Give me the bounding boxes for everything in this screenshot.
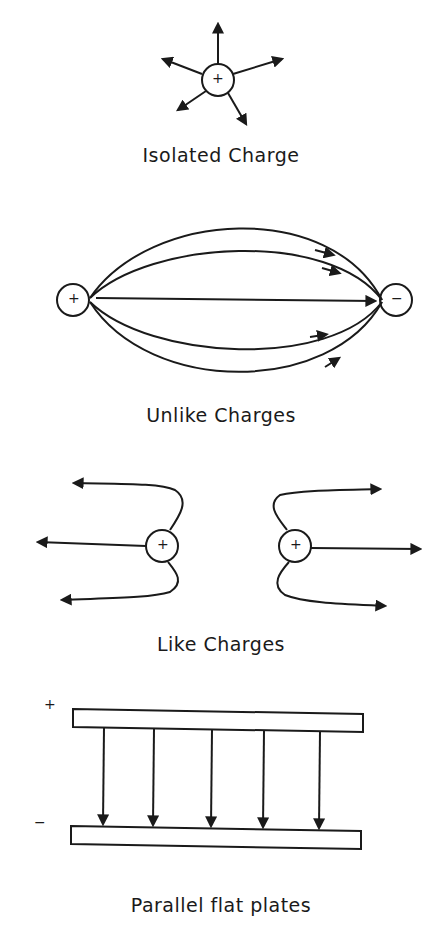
field-line-outer-bottom: [90, 302, 382, 372]
field-line-inner-bottom: [90, 302, 382, 349]
field-arrow-lower-right: [228, 93, 246, 124]
unlike-charges-label: Unlike Charges: [0, 404, 442, 426]
field-line-center: [96, 298, 375, 301]
negative-plate: [71, 826, 361, 849]
electric-field-diagram: [0, 0, 442, 939]
plate-negative-sign: −: [34, 814, 46, 830]
positive-plate: [73, 709, 363, 732]
field-arrow-lower-left: [178, 91, 206, 110]
like-charges-figure: [38, 483, 420, 606]
plate-positive-sign: +: [44, 696, 56, 712]
unlike-positive-sign: +: [68, 290, 80, 306]
field-line-outer-top: [90, 228, 382, 300]
like-right-sign: +: [290, 536, 302, 552]
unlike-charges-figure: [57, 228, 412, 371]
parallel-plates-figure: [71, 709, 363, 849]
isolated-charge-label: Isolated Charge: [0, 144, 442, 166]
parallel-plates-label: Parallel flat plates: [0, 894, 442, 916]
like-charges-label: Like Charges: [0, 633, 442, 655]
field-arrow-right: [233, 59, 282, 74]
isolated-charge-sign: +: [212, 70, 224, 86]
field-arrow-left: [163, 59, 202, 74]
like-left-sign: +: [157, 536, 169, 552]
unlike-negative-sign: −: [391, 290, 403, 306]
